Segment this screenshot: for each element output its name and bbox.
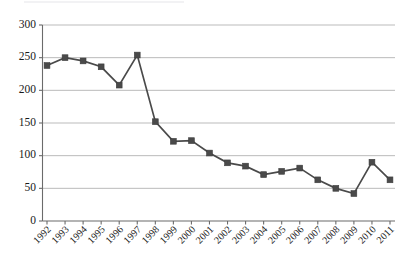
data-point-marker-2002 <box>225 160 231 166</box>
chart-canvas: 050100150200250300 199219931994199519961… <box>0 0 412 272</box>
data-point-marker-2000 <box>189 138 195 144</box>
data-point-marker-2005 <box>279 168 285 174</box>
data-point-marker-1994 <box>80 58 86 64</box>
y-tick-label-200: 200 <box>19 83 37 95</box>
data-point-marker-1998 <box>152 119 158 125</box>
y-tick-label-50: 50 <box>25 181 37 193</box>
line-chart: 050100150200250300 199219931994199519961… <box>0 0 412 272</box>
y-tick-label-300: 300 <box>19 18 37 30</box>
data-point-marker-2008 <box>333 185 339 191</box>
data-point-marker-1999 <box>170 138 176 144</box>
top-edge-artifact <box>24 1 184 3</box>
data-point-marker-2007 <box>315 177 321 183</box>
data-point-marker-2004 <box>261 172 267 178</box>
y-tick-label-250: 250 <box>19 50 37 62</box>
data-point-marker-2010 <box>369 159 375 165</box>
data-point-marker-1993 <box>62 55 68 61</box>
data-point-marker-1992 <box>44 63 50 69</box>
data-point-marker-2006 <box>297 165 303 171</box>
data-point-marker-2009 <box>351 191 357 197</box>
data-point-marker-2003 <box>243 163 249 169</box>
data-point-marker-1995 <box>98 64 104 70</box>
y-tick-label-100: 100 <box>19 148 37 160</box>
y-tick-label-150: 150 <box>19 116 37 128</box>
data-point-marker-1996 <box>116 82 122 88</box>
data-point-marker-2001 <box>207 150 213 156</box>
data-point-marker-2011 <box>387 177 393 183</box>
y-tick-label-0: 0 <box>30 214 36 226</box>
data-point-marker-1997 <box>134 52 140 58</box>
